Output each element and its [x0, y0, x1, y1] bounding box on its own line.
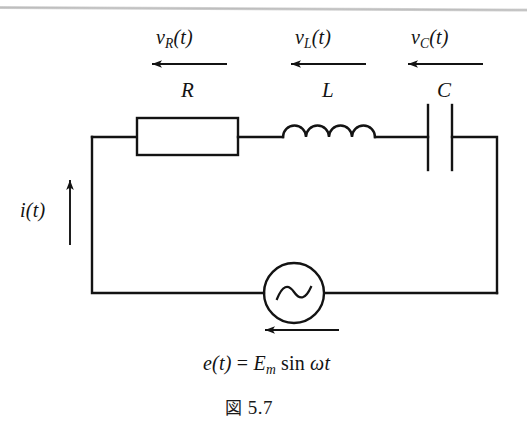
capacitor-symbol-label: C — [437, 80, 451, 101]
source-equation-label: e(t) = Em sin ωt — [203, 353, 330, 376]
current-label: i(t) — [20, 200, 45, 220]
capacitor-voltage-label: vC(t) — [411, 27, 449, 50]
inductor-voltage-label: vL(t) — [295, 27, 331, 50]
resistor-body — [137, 118, 238, 155]
caption-number: 5.7 — [248, 397, 273, 418]
wire-right-side — [452, 137, 497, 293]
figure-caption: 図 5.7 — [225, 394, 273, 419]
figure-page: vR(t) R vL(t) L vC(t) C i(t) e(t) = Em s… — [0, 0, 527, 429]
resistor-symbol-label: R — [181, 80, 194, 101]
caption-prefix: 図 — [225, 398, 243, 418]
wire-left-side — [92, 137, 264, 293]
inductor-symbol-label: L — [322, 80, 334, 101]
resistor-voltage-label: vR(t) — [156, 27, 193, 50]
inductor-coil — [283, 126, 375, 137]
